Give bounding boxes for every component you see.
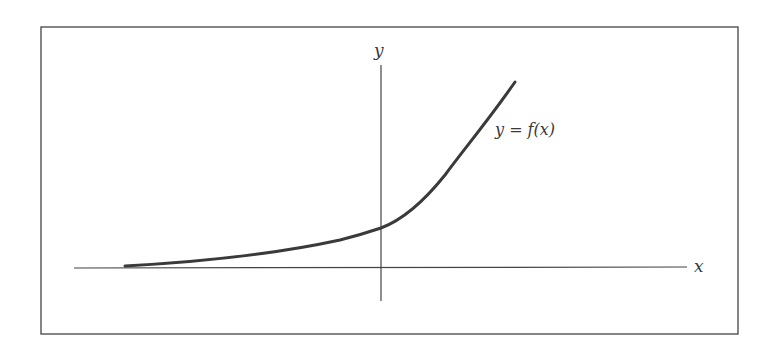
curve-label: y = f(x) bbox=[494, 120, 555, 139]
x-axis-label: x bbox=[694, 256, 704, 276]
figure-frame bbox=[41, 27, 738, 334]
function-graph: x y y = f(x) bbox=[0, 0, 778, 345]
y-axis-label: y bbox=[373, 40, 384, 60]
function-curve bbox=[125, 82, 515, 266]
